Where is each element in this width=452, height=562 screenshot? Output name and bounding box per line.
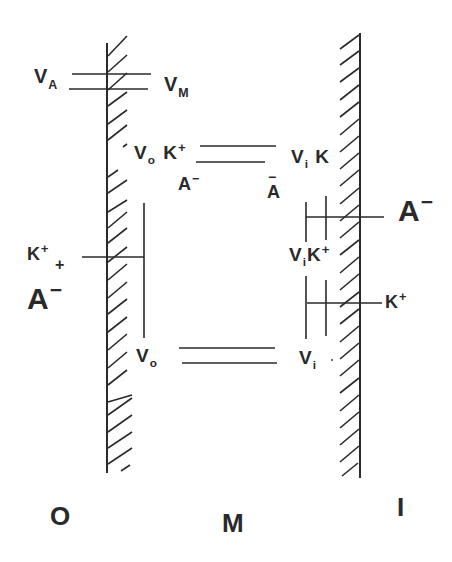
bottom-levels	[179, 348, 277, 363]
vi-sub: i	[303, 255, 306, 268]
label-vi-bottom: Vi	[299, 348, 316, 367]
a-base: A	[267, 182, 280, 202]
k-ion: K	[315, 146, 329, 167]
compartment-label-membrane: M	[222, 510, 244, 536]
inner-membrane-wall	[340, 33, 360, 478]
label-a-minus-right-mid: A −	[267, 183, 280, 201]
vo-sub: o	[150, 356, 157, 369]
va-base: V	[34, 65, 47, 87]
va-sub: A	[48, 78, 57, 92]
a-charge: −	[192, 172, 199, 186]
a-base: A	[27, 282, 49, 315]
label-vo-bottom: Vo	[136, 346, 157, 365]
label-a-minus-inner: A−	[398, 196, 433, 226]
k-ion: K	[307, 244, 321, 265]
vo-sub: o	[148, 153, 155, 166]
label-k-plus-outer: K+ +	[27, 245, 48, 263]
a-base: A	[398, 194, 420, 227]
a-charge: −	[50, 278, 62, 301]
k-charge: +	[399, 290, 406, 304]
vm-base: V	[164, 73, 177, 95]
label-vi-k-plus: ViK+	[289, 245, 329, 264]
k-charge: +	[41, 242, 48, 256]
vi-base: V	[291, 146, 304, 167]
label-vo-k-plus-top: Vo K+	[134, 143, 186, 162]
dot-mark	[331, 359, 333, 361]
a-base: A	[178, 174, 191, 194]
vi-sub: i	[305, 157, 308, 170]
label-k-plus-inner: K+	[385, 293, 406, 311]
k-extra-charge: +	[55, 257, 64, 273]
k-charge: +	[178, 140, 186, 155]
top-ion-levels	[196, 146, 276, 162]
compartment-label-outer: O	[50, 503, 70, 529]
vi-base: V	[289, 244, 302, 265]
k-base: K	[385, 292, 398, 312]
vo-base: V	[136, 345, 149, 366]
label-a-minus-outer: A−	[27, 284, 62, 314]
label-va: VA	[34, 66, 57, 86]
inner-potential-brackets	[306, 196, 384, 339]
k-base: K	[27, 244, 40, 264]
outer-membrane-wall	[107, 36, 132, 473]
vo-base: V	[134, 142, 147, 163]
va-vm-levels	[69, 74, 151, 89]
vi-sub: i	[313, 358, 316, 371]
label-vi-k-top: Vi K	[291, 147, 329, 166]
compartment-label-inner: I	[397, 494, 404, 520]
membrane-potential-diagram	[0, 0, 452, 562]
label-vm: VM	[164, 74, 189, 94]
vi-base: V	[299, 347, 312, 368]
k-charge: +	[322, 242, 330, 257]
vm-sub: M	[178, 86, 188, 100]
a-charge: −	[268, 170, 276, 184]
label-a-minus-left-mid: A−	[178, 175, 199, 193]
a-charge: −	[421, 190, 433, 213]
k-ion: K	[163, 142, 177, 163]
